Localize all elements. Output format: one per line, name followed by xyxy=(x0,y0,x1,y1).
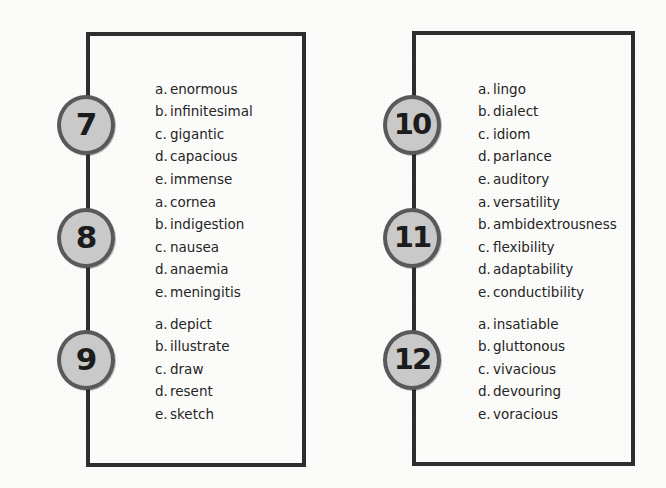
answer-option[interactable]: c.nausea xyxy=(155,236,244,258)
answer-option[interactable]: c.flexibility xyxy=(478,236,617,258)
option-letter: b. xyxy=(478,100,493,122)
option-text: illustrate xyxy=(170,338,230,354)
option-letter: b. xyxy=(155,213,170,235)
question-number-badge-11[interactable]: 11 xyxy=(383,208,441,268)
question-number-label: 8 xyxy=(76,222,97,253)
option-text: resent xyxy=(170,383,213,399)
worksheet-page: 7a.enormousb.infinitesimalc.giganticd.ca… xyxy=(0,0,666,488)
option-text: draw xyxy=(170,361,203,377)
option-text: versatility xyxy=(493,194,560,210)
option-letter: e. xyxy=(155,168,170,190)
option-text: enormous xyxy=(170,81,237,97)
option-text: depict xyxy=(170,316,212,332)
option-text: idiom xyxy=(493,126,530,142)
question-number-label: 12 xyxy=(394,345,430,374)
option-letter: e. xyxy=(155,403,170,425)
option-letter: a. xyxy=(155,191,170,213)
question-number-badge-8[interactable]: 8 xyxy=(57,208,115,268)
answer-option[interactable]: e.meningitis xyxy=(155,281,244,303)
answer-option[interactable]: a.lingo xyxy=(478,78,552,100)
answer-option-list-q10: a.lingob.dialectc.idiomd.parlancee.audit… xyxy=(478,78,552,190)
answer-option[interactable]: e.voracious xyxy=(478,403,565,425)
answer-option[interactable]: b.infinitesimal xyxy=(155,100,253,122)
option-text: anaemia xyxy=(170,261,229,277)
option-letter: a. xyxy=(155,78,170,100)
option-letter: e. xyxy=(478,281,493,303)
option-text: capacious xyxy=(170,148,238,164)
option-letter: b. xyxy=(478,335,493,357)
answer-option-list-q11: a.versatilityb.ambidextrousnessc.flexibi… xyxy=(478,191,617,303)
option-text: conductibility xyxy=(493,284,584,300)
answer-option[interactable]: e.auditory xyxy=(478,168,552,190)
option-text: cornea xyxy=(170,194,216,210)
answer-option[interactable]: d.resent xyxy=(155,380,230,402)
answer-option[interactable]: e.sketch xyxy=(155,403,230,425)
answer-option[interactable]: a.versatility xyxy=(478,191,617,213)
option-text: nausea xyxy=(170,239,219,255)
answer-option[interactable]: c.vivacious xyxy=(478,358,565,380)
option-text: indigestion xyxy=(170,216,244,232)
option-letter: e. xyxy=(155,281,170,303)
option-letter: c. xyxy=(478,123,493,145)
answer-option[interactable]: e.immense xyxy=(155,168,253,190)
option-letter: b. xyxy=(155,335,170,357)
option-text: insatiable xyxy=(493,316,559,332)
answer-option-list-q7: a.enormousb.infinitesimalc.giganticd.cap… xyxy=(155,78,253,190)
answer-option[interactable]: a.cornea xyxy=(155,191,244,213)
question-number-badge-12[interactable]: 12 xyxy=(383,330,441,390)
option-letter: d. xyxy=(155,258,170,280)
option-text: vivacious xyxy=(493,361,556,377)
option-letter: b. xyxy=(478,213,493,235)
option-text: meningitis xyxy=(170,284,241,300)
option-letter: c. xyxy=(478,358,493,380)
answer-option-list-q12: a.insatiableb.gluttonousc.vivaciousd.dev… xyxy=(478,313,565,425)
option-letter: c. xyxy=(155,236,170,258)
option-text: devouring xyxy=(493,383,561,399)
answer-option[interactable]: a.enormous xyxy=(155,78,253,100)
question-number-label: 7 xyxy=(76,109,97,140)
option-text: voracious xyxy=(493,406,558,422)
question-number-badge-9[interactable]: 9 xyxy=(57,330,115,390)
question-number-label: 9 xyxy=(76,344,97,375)
answer-option[interactable]: c.draw xyxy=(155,358,230,380)
answer-option[interactable]: d.capacious xyxy=(155,145,253,167)
answer-option[interactable]: d.parlance xyxy=(478,145,552,167)
question-number-badge-10[interactable]: 10 xyxy=(383,95,441,155)
answer-option[interactable]: e.conductibility xyxy=(478,281,617,303)
answer-option[interactable]: d.devouring xyxy=(478,380,565,402)
answer-option[interactable]: d.adaptability xyxy=(478,258,617,280)
question-number-badge-7[interactable]: 7 xyxy=(57,95,115,155)
answer-option[interactable]: b.ambidextrousness xyxy=(478,213,617,235)
option-letter: d. xyxy=(478,380,493,402)
option-letter: c. xyxy=(478,236,493,258)
option-letter: e. xyxy=(478,403,493,425)
option-text: auditory xyxy=(493,171,549,187)
answer-option[interactable]: a.insatiable xyxy=(478,313,565,335)
option-text: ambidextrousness xyxy=(493,216,617,232)
answer-option-list-q8: a.corneab.indigestionc.nausead.anaemiae.… xyxy=(155,191,244,303)
option-letter: d. xyxy=(478,258,493,280)
option-letter: d. xyxy=(155,145,170,167)
option-letter: d. xyxy=(478,145,493,167)
option-letter: a. xyxy=(478,78,493,100)
answer-option[interactable]: d.anaemia xyxy=(155,258,244,280)
option-letter: a. xyxy=(155,313,170,335)
option-letter: c. xyxy=(155,358,170,380)
answer-option[interactable]: b.indigestion xyxy=(155,213,244,235)
answer-option[interactable]: b.dialect xyxy=(478,100,552,122)
answer-option[interactable]: b.illustrate xyxy=(155,335,230,357)
option-letter: a. xyxy=(478,191,493,213)
answer-option[interactable]: c.idiom xyxy=(478,123,552,145)
answer-option[interactable]: a.depict xyxy=(155,313,230,335)
answer-option[interactable]: b.gluttonous xyxy=(478,335,565,357)
answer-option-list-q9: a.depictb.illustratec.drawd.resente.sket… xyxy=(155,313,230,425)
option-letter: b. xyxy=(155,100,170,122)
option-text: immense xyxy=(170,171,232,187)
option-letter: c. xyxy=(155,123,170,145)
answer-option[interactable]: c.gigantic xyxy=(155,123,253,145)
option-text: gluttonous xyxy=(493,338,565,354)
question-number-label: 11 xyxy=(394,223,430,252)
option-text: sketch xyxy=(170,406,214,422)
option-text: lingo xyxy=(493,81,526,97)
option-text: adaptability xyxy=(493,261,573,277)
